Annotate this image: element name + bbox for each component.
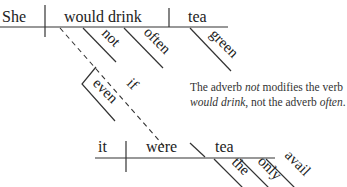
modifier-avail: avail: [282, 147, 314, 179]
conjunction-if: if: [124, 75, 142, 93]
note-text: modifies the verb: [260, 81, 343, 93]
note-emphasis-not: not: [245, 81, 260, 93]
note-emphasis-would-drink: would drink: [190, 96, 245, 108]
modifier-often: often: [141, 24, 174, 57]
note-text: .: [343, 96, 346, 108]
modifier-green: green: [207, 26, 242, 61]
sub-complement: tea: [215, 138, 234, 155]
sub-verb: were: [146, 138, 177, 155]
explanatory-note: The adverb not modifies the verb would d…: [190, 80, 347, 110]
main-verb: would drink: [64, 8, 142, 25]
modifier-even: even: [90, 75, 122, 107]
note-text: , not the adverb: [245, 96, 319, 108]
modifier-not: not: [99, 25, 124, 50]
sub-subject: it: [98, 138, 107, 155]
note-emphasis-often: often: [320, 96, 343, 108]
note-text: The adverb: [190, 81, 245, 93]
main-object: tea: [188, 8, 207, 25]
main-subject: She: [2, 8, 26, 25]
sub-complement-slash: [190, 143, 205, 157]
